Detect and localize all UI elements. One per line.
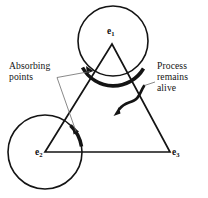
vertex-label-e3-subscript: 3 — [176, 151, 179, 158]
annotation-absorbing-line-1: Absorbing — [9, 60, 50, 71]
annotation-process-line-3: alive — [157, 82, 188, 93]
absorbing-arc-left — [71, 126, 82, 147]
annotation-process-line-1: Process — [157, 60, 188, 71]
vertex-label-e3: e3 — [172, 147, 179, 157]
vertex-label-e2: e2 — [35, 147, 42, 157]
annotation-absorbing-points: Absorbing points — [9, 60, 50, 82]
diagram-svg — [0, 0, 208, 198]
annotation-absorbing-line-2: points — [9, 71, 50, 82]
vertex-label-e2-subscript: 2 — [39, 151, 42, 158]
circle-around-e1 — [78, 6, 148, 76]
vertex-label-e1-subscript: 1 — [111, 30, 114, 37]
leader-line-absorbing-top — [57, 72, 90, 78]
triangle-e1-e2-e3 — [45, 44, 170, 152]
leader-line-process — [145, 82, 156, 86]
leader-line-absorbing-left — [57, 78, 76, 132]
figure-canvas: Absorbing points Process remains alive e… — [0, 0, 208, 198]
annotation-process-line-2: remains — [157, 71, 188, 82]
vertex-label-e1: e1 — [107, 26, 114, 36]
annotation-process-remains-alive: Process remains alive — [157, 60, 188, 93]
